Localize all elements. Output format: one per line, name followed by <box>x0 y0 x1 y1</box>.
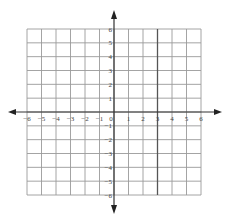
y-tick-label: −2 <box>105 136 113 144</box>
y-tick-label: 2 <box>109 81 113 89</box>
x-tick-label: −5 <box>38 115 46 123</box>
y-tick-label: −5 <box>105 178 113 186</box>
x-tick-label: 5 <box>185 115 189 123</box>
y-tick-label: −1 <box>105 122 113 130</box>
arrow-up-icon <box>111 10 117 19</box>
arrow-down-icon <box>111 205 117 214</box>
x-tick-label: −4 <box>52 115 60 123</box>
y-tick-label: 5 <box>109 39 113 47</box>
x-tick-label: −3 <box>67 115 75 123</box>
y-tick-label: 6 <box>109 26 113 34</box>
y-tick-label: 3 <box>109 67 113 75</box>
arrow-right-icon <box>214 109 222 115</box>
x-tick-label: −2 <box>81 115 89 123</box>
x-tick-label: −1 <box>96 115 104 123</box>
x-tick-label: 3 <box>156 115 160 123</box>
arrow-left-icon <box>8 109 16 115</box>
x-tick-label: 4 <box>170 115 174 123</box>
y-tick-label: −6 <box>105 192 113 200</box>
y-tick-label: 1 <box>109 95 113 103</box>
y-tick-label: −3 <box>105 150 113 158</box>
y-tick-label: −4 <box>105 164 113 172</box>
x-tick-label: 1 <box>127 115 131 123</box>
y-tick-label: 4 <box>109 53 113 61</box>
coordinate-grid: −6−5−4−3−2−10123456123456−1−2−3−4−5−6 <box>0 0 229 224</box>
coordinate-plane: −6−5−4−3−2−10123456123456−1−2−3−4−5−6 <box>0 0 229 224</box>
x-tick-label: 2 <box>141 115 145 123</box>
x-tick-label: −6 <box>23 115 31 123</box>
x-tick-label: 6 <box>199 115 203 123</box>
